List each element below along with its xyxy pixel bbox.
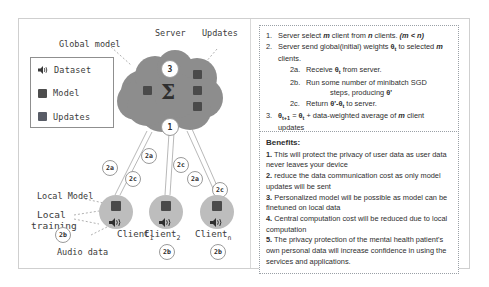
algorithm-step: 2. Server send global(initial) weights θ… — [266, 42, 452, 65]
update-square-icon — [193, 86, 202, 95]
step-badge-3: 3 — [161, 60, 179, 78]
algorithm-panel: 1. Server select m client from n clients… — [259, 25, 459, 140]
algorithm-substep: 2b. Run some number of minibatch SGD — [290, 78, 452, 89]
benefit-text: This will protect the privacy of user da… — [266, 150, 447, 170]
figure-frame: Dataset Model Updates Global model Serve… — [18, 18, 470, 269]
step-badge-2a-client3: 2a — [187, 171, 203, 187]
step-badge-2a-client2: 2a — [141, 148, 157, 164]
speaker-icon — [210, 214, 224, 225]
client-node-3 — [200, 195, 234, 229]
algorithm-substep: 2a. Receive θt from server. — [290, 65, 452, 77]
step-badge-2c-client1: 2c — [125, 171, 141, 187]
server-cloud: Σ 3 1 — [117, 48, 227, 136]
algorithm-step-number: 2. — [266, 42, 278, 65]
speaker-icon — [109, 214, 123, 225]
annotation-updates: Updates — [202, 28, 238, 38]
benefit-number: 5. — [266, 235, 272, 244]
algorithm-substep-text: Receive θt from server. — [306, 65, 452, 77]
annotation-local-model: Local Model — [37, 191, 93, 201]
legend-box: Dataset Model Updates — [30, 57, 114, 128]
algorithm-substep-number: 2b. — [290, 78, 306, 89]
step-badge-2a-client1: 2a — [102, 160, 118, 176]
step-badge-2b-client2: 2b — [159, 244, 175, 260]
square-icon — [111, 201, 121, 211]
benefit-item: 2. reduce the data communication cost as… — [266, 171, 452, 192]
benefit-text: Personalized model will be possible as m… — [266, 193, 447, 213]
federated-learning-diagram: Dataset Model Updates Global model Serve… — [19, 19, 251, 268]
benefit-number: 2. — [266, 171, 272, 180]
algorithm-substep-number: 2c. — [290, 99, 306, 111]
square-icon — [38, 112, 47, 121]
legend-item-dataset: Dataset — [31, 58, 113, 82]
benefit-item: 3. Personalized model will be possible a… — [266, 193, 452, 214]
algorithm-step: 1. Server select m client from n clients… — [266, 31, 452, 42]
benefit-text: Central computation cost will be reduced… — [266, 214, 447, 234]
global-model-square-icon — [143, 86, 152, 95]
step-badge-2c-client2: 2c — [173, 157, 189, 173]
update-square-icon — [193, 102, 202, 111]
benefit-number: 3. — [266, 193, 272, 202]
benefit-number: 4. — [266, 214, 272, 223]
benefit-text: The privacy protection of the mental hea… — [266, 235, 446, 265]
benefits-panel: Benefits: 1. This will protect the priva… — [259, 131, 459, 274]
benefit-text: reduce the data communication cost as on… — [266, 171, 441, 191]
benefit-number: 1. — [266, 150, 272, 159]
sigma-symbol: Σ — [161, 82, 175, 102]
speaker-icon — [38, 65, 49, 75]
algorithm-substep-text: steps, producing θ' — [330, 88, 452, 99]
legend-label-updates: Updates — [53, 112, 90, 122]
annotation-audio-data: Audio data — [57, 247, 108, 257]
algorithm-substep: 2c. Return θ'-θt to server. — [290, 99, 452, 111]
annotation-local-training-1: Local — [37, 209, 66, 220]
speaker-icon — [159, 214, 173, 225]
right-column: 1. Server select m client from n clients… — [252, 19, 469, 268]
legend-label-model: Model — [53, 88, 80, 98]
square-icon — [161, 201, 171, 211]
step-badge-1: 1 — [161, 118, 179, 136]
legend-item-updates: Updates — [31, 105, 113, 129]
step-badge-2b-client3: 2b — [210, 244, 226, 260]
annotation-local-training-2: training — [31, 220, 77, 231]
benefit-item: 4. Central computation cost will be redu… — [266, 214, 452, 235]
benefit-item: 1. This will protect the privacy of user… — [266, 150, 452, 171]
algorithm-substep-number: 2a. — [290, 65, 306, 77]
algorithm-step-text: Server select m client from n clients. (… — [278, 31, 452, 42]
algorithm-substep-continued: steps, producing θ' — [330, 88, 452, 99]
step-badge-2b-client1: 2b — [55, 227, 71, 243]
algorithm-step-number: 1. — [266, 31, 278, 42]
algorithm-substep-text: Return θ'-θt to server. — [306, 99, 452, 111]
legend-item-model: Model — [31, 82, 113, 106]
update-square-icon — [193, 70, 202, 79]
benefits-title: Benefits: — [266, 137, 452, 149]
legend-label-dataset: Dataset — [54, 65, 91, 75]
annotation-server: Server — [155, 28, 186, 38]
client-label-2: Client2 — [144, 229, 180, 242]
annotation-global-model: Global model — [59, 39, 120, 49]
client-node-1 — [99, 195, 133, 229]
square-icon — [212, 201, 222, 211]
client-label-3: Clientn — [195, 229, 231, 242]
square-icon — [38, 89, 47, 98]
client-node-2 — [149, 195, 183, 229]
algorithm-substep-text: Run some number of minibatch SGD — [306, 78, 452, 89]
algorithm-step-text: Server send global(initial) weights θt t… — [278, 42, 452, 65]
benefit-item: 5. The privacy protection of the mental … — [266, 235, 452, 267]
